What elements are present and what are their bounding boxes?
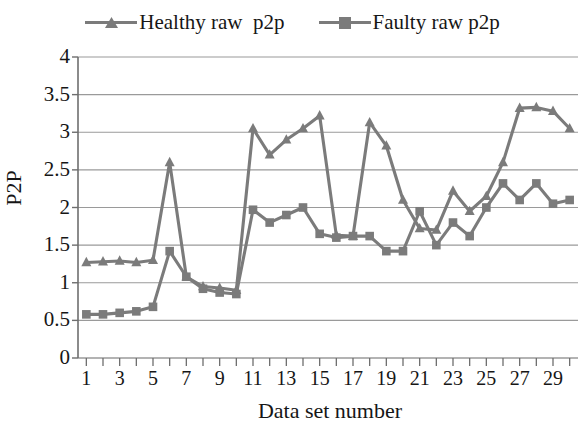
square-marker-icon bbox=[465, 232, 474, 241]
square-marker-icon bbox=[315, 230, 324, 239]
triangle-marker-icon bbox=[165, 157, 175, 166]
square-marker-icon bbox=[215, 288, 224, 297]
square-marker-icon bbox=[232, 290, 241, 299]
square-marker-icon bbox=[299, 203, 308, 212]
x-axis-tick-label: 29 bbox=[538, 368, 568, 388]
x-axis-tick-label: 27 bbox=[505, 368, 535, 388]
square-marker-icon bbox=[365, 232, 374, 241]
square-marker-icon bbox=[349, 232, 358, 241]
square-marker-icon bbox=[449, 218, 458, 227]
series-line-faulty bbox=[86, 183, 569, 314]
x-axis-tick-label: 25 bbox=[471, 368, 501, 388]
square-marker-icon bbox=[432, 241, 441, 250]
square-marker-icon bbox=[132, 307, 141, 316]
square-marker-icon bbox=[249, 205, 258, 214]
square-marker-icon bbox=[565, 196, 574, 205]
y-axis-tick-label: 2.5 bbox=[24, 159, 70, 180]
square-marker-icon bbox=[499, 179, 508, 188]
x-axis-tick-label: 15 bbox=[305, 368, 335, 388]
x-axis-tick-label: 21 bbox=[405, 368, 435, 388]
square-marker-icon bbox=[82, 310, 91, 319]
y-axis-tick-label: 2 bbox=[24, 197, 70, 218]
y-axis-tick-label: 3 bbox=[24, 121, 70, 142]
triangle-marker-icon bbox=[498, 157, 508, 166]
square-marker-icon bbox=[282, 211, 291, 220]
y-axis-tick-label: 1.5 bbox=[24, 234, 70, 255]
x-axis-tick-label: 17 bbox=[338, 368, 368, 388]
square-marker-icon bbox=[182, 272, 191, 281]
triangle-marker-icon bbox=[448, 185, 458, 194]
square-marker-icon bbox=[532, 179, 541, 188]
triangle-marker-icon bbox=[398, 194, 408, 203]
y-axis-tick-label: 1 bbox=[24, 272, 70, 293]
square-marker-icon bbox=[399, 247, 408, 256]
y-axis-title: P2P bbox=[1, 148, 27, 228]
square-marker-icon bbox=[115, 309, 124, 318]
x-axis-tick-label: 23 bbox=[438, 368, 468, 388]
square-marker-icon bbox=[332, 233, 341, 242]
x-axis-title: Data set number bbox=[80, 398, 580, 424]
x-axis-tick-label: 3 bbox=[105, 368, 135, 388]
square-marker-icon bbox=[99, 310, 108, 319]
square-marker-icon bbox=[482, 203, 491, 212]
square-marker-icon bbox=[199, 284, 208, 293]
x-axis-tick-label: 7 bbox=[171, 368, 201, 388]
triangle-marker-icon bbox=[365, 117, 375, 126]
square-marker-icon bbox=[382, 247, 391, 256]
square-marker-icon bbox=[415, 207, 424, 216]
series-line-healthy bbox=[86, 107, 569, 290]
y-axis-tick-label: 0 bbox=[24, 347, 70, 368]
square-marker-icon bbox=[265, 218, 274, 227]
triangle-marker-icon bbox=[315, 110, 325, 119]
y-axis-tick-label: 3.5 bbox=[24, 84, 70, 105]
x-axis-tick-label: 9 bbox=[205, 368, 235, 388]
x-axis-tick-label: 5 bbox=[138, 368, 168, 388]
square-marker-icon bbox=[515, 196, 524, 205]
x-axis-tick-label: 19 bbox=[371, 368, 401, 388]
square-marker-icon bbox=[149, 303, 158, 312]
x-axis-tick-label: 13 bbox=[271, 368, 301, 388]
square-marker-icon bbox=[549, 199, 558, 208]
square-marker-icon bbox=[165, 247, 174, 256]
y-axis-tick-label: 0.5 bbox=[24, 309, 70, 330]
x-axis-tick-label: 11 bbox=[238, 368, 268, 388]
plot-area: 00.511.522.533.54 1357911131517192123252… bbox=[0, 0, 585, 432]
p2p-line-chart: Healthy raw p2p Faulty raw p2p 00.511.52… bbox=[0, 0, 585, 432]
y-axis-tick-label: 4 bbox=[24, 46, 70, 67]
triangle-marker-icon bbox=[248, 123, 258, 132]
x-axis-tick-label: 1 bbox=[71, 368, 101, 388]
